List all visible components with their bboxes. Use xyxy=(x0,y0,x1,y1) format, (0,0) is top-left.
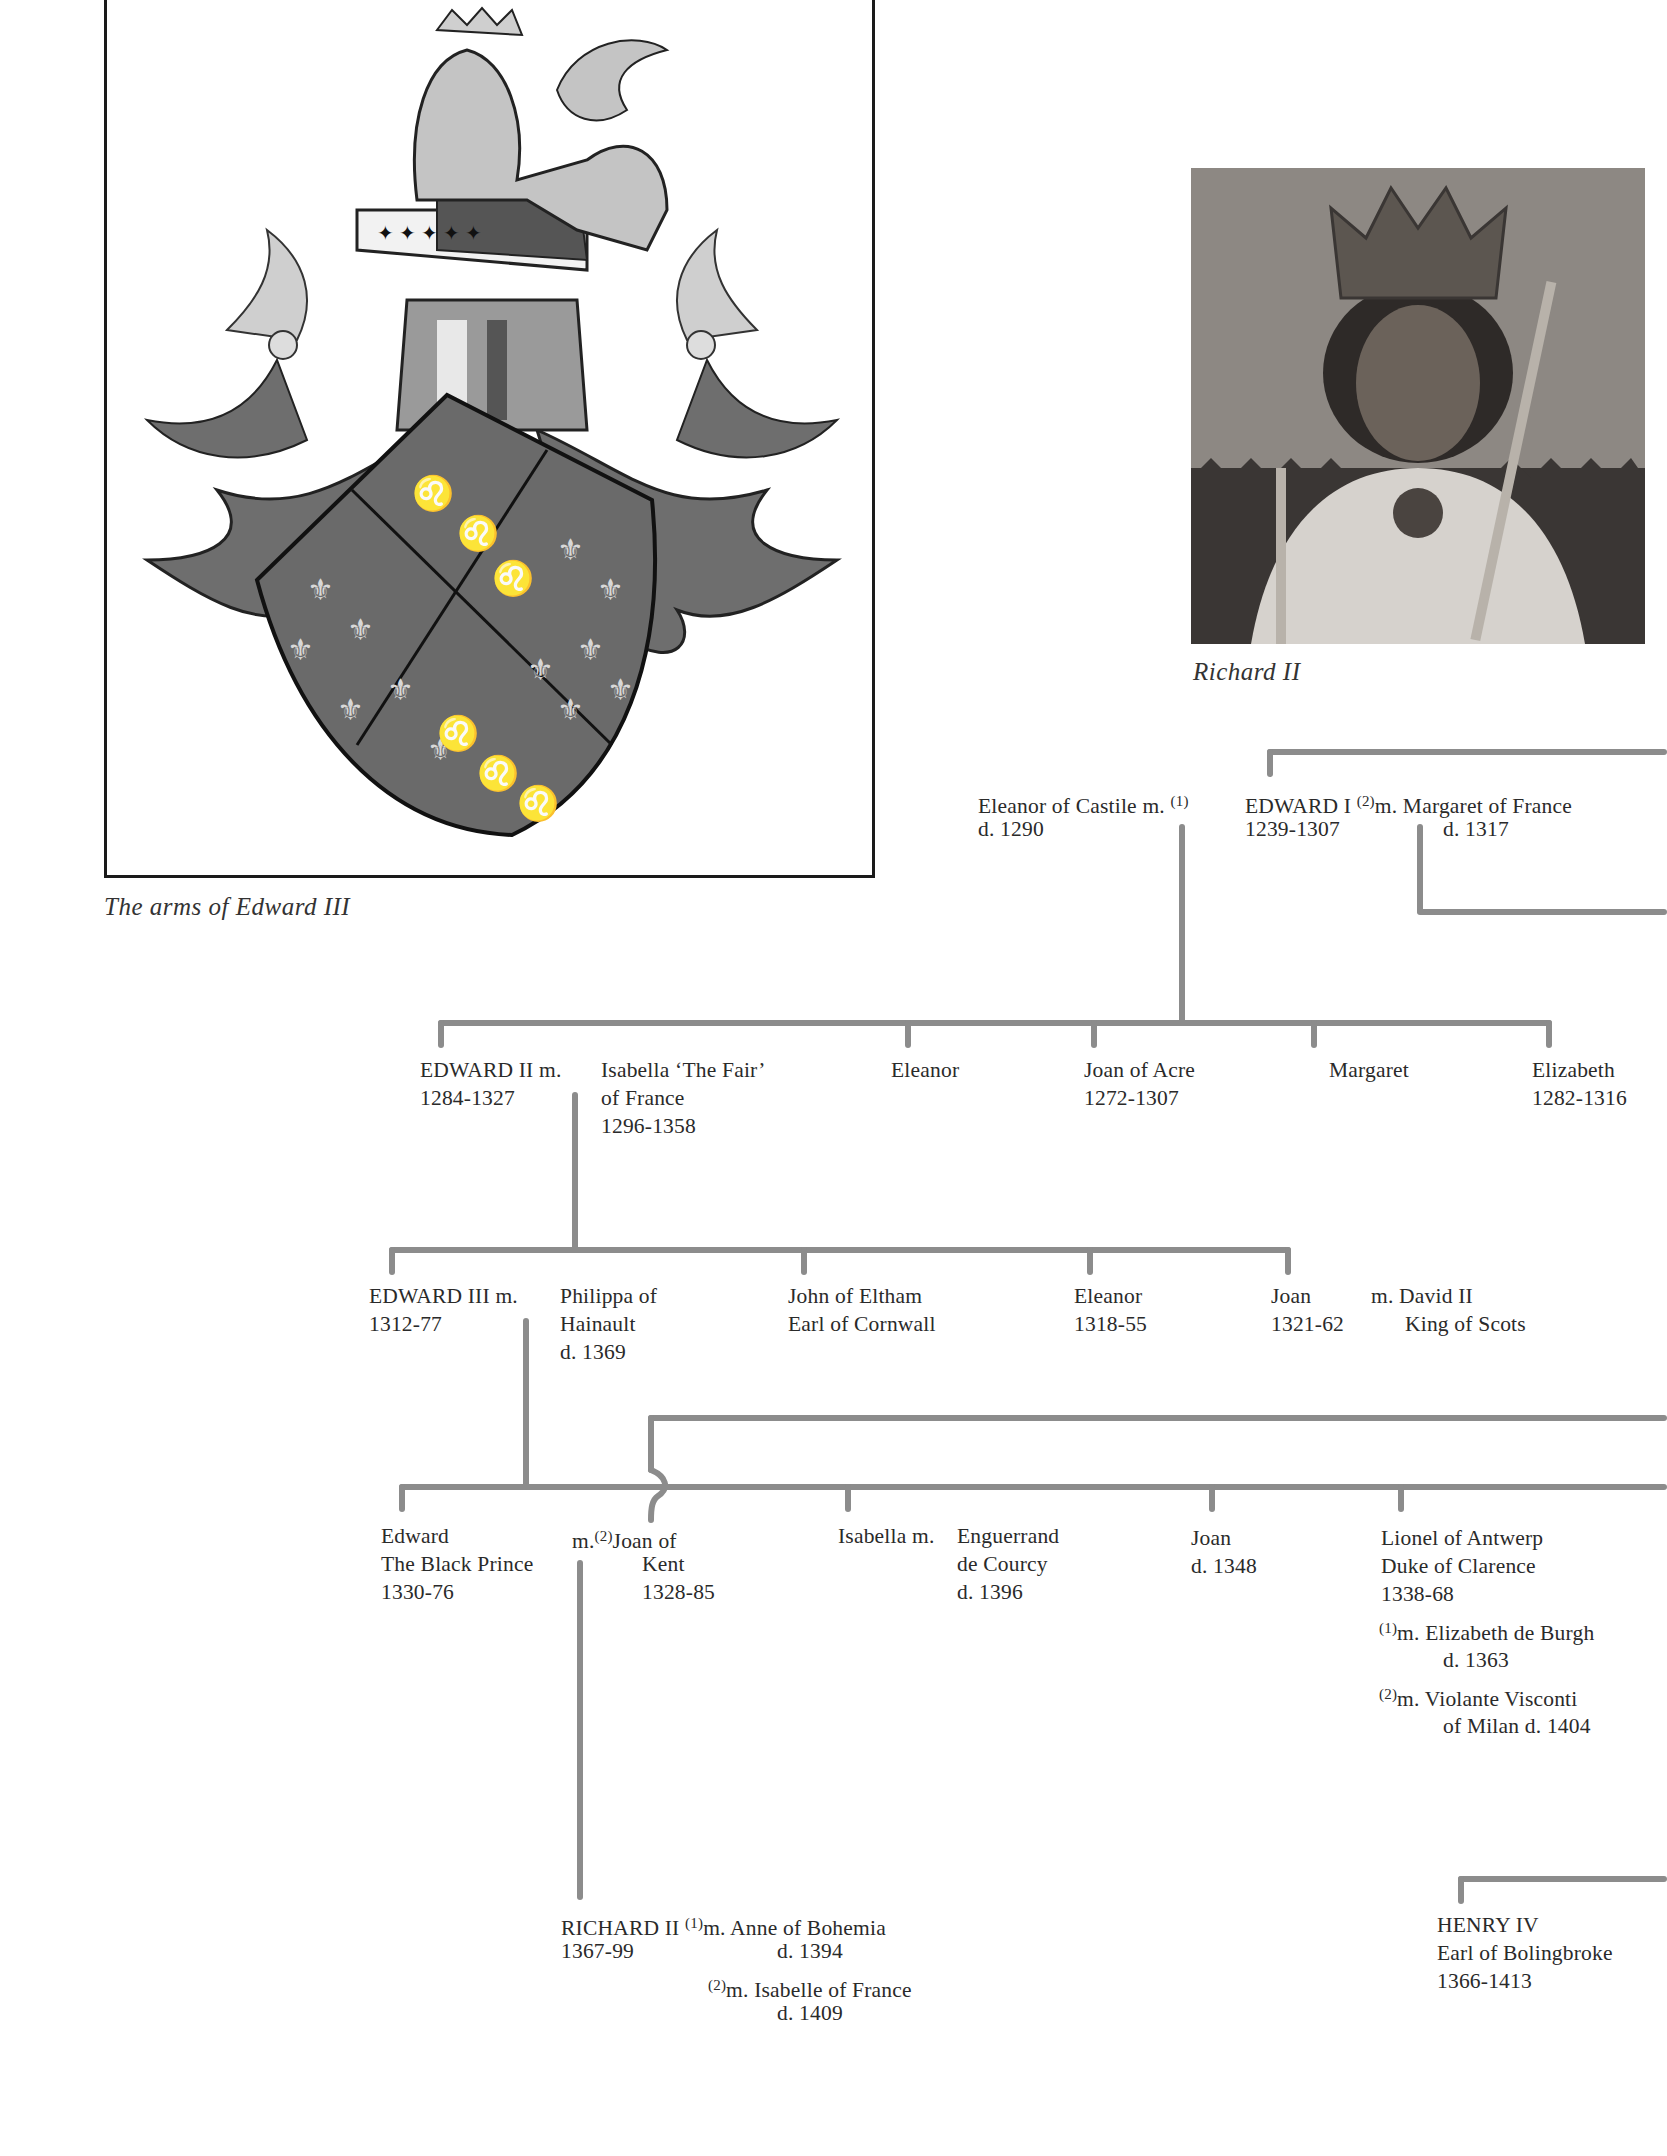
svg-text:⚜: ⚜ xyxy=(307,573,334,606)
person-joan: Joan xyxy=(1271,1282,1311,1310)
svg-text:⚜: ⚜ xyxy=(287,633,314,666)
person-dates: d. 1317 xyxy=(1443,815,1509,843)
person-dates: 1282-1316 xyxy=(1532,1084,1627,1112)
spouse-dates: d. 1394 xyxy=(777,1937,843,1965)
line-bridge-icon xyxy=(644,1468,674,1524)
person-dates: d. 1348 xyxy=(1191,1552,1257,1580)
marriage-number: (1) xyxy=(685,1915,703,1931)
person-eleanor: Eleanor xyxy=(1074,1282,1142,1310)
spouse-dates: d. 1363 xyxy=(1443,1646,1509,1674)
connector-line xyxy=(648,1415,1667,1421)
spouse-name: m. Elizabeth de Burgh xyxy=(1397,1621,1594,1645)
marriage-marker: m. xyxy=(539,1058,562,1082)
spouse-title: King of Scots xyxy=(1405,1310,1526,1338)
connector-line xyxy=(523,1318,529,1490)
svg-text:⚜: ⚜ xyxy=(597,573,624,606)
person-lionel-line1: Lionel of Antwerp xyxy=(1381,1524,1543,1552)
person-name: EDWARD II xyxy=(420,1058,533,1082)
person-edward-ii: EDWARD II m. xyxy=(420,1056,562,1084)
spouse-isabella-dates: 1296-1358 xyxy=(601,1112,696,1140)
spouse-dates: d. 1409 xyxy=(777,1999,843,2027)
spouse-isabella-line1: Isabella ‘The Fair’ xyxy=(601,1056,766,1084)
connector-line xyxy=(1209,1484,1215,1512)
connector-line xyxy=(1546,1020,1552,1048)
connector-line xyxy=(438,1020,444,1048)
connector-line xyxy=(1179,824,1185,1026)
marriage-marker: (2) xyxy=(1357,793,1375,809)
spouse-dates: d. 1396 xyxy=(957,1578,1023,1606)
svg-text:⚜: ⚜ xyxy=(557,693,584,726)
svg-text:⚜: ⚜ xyxy=(527,653,554,686)
marriage-number: (2) xyxy=(708,1977,726,1993)
connector-line xyxy=(577,1560,583,1900)
connector-line xyxy=(845,1484,851,1512)
svg-text:⚜: ⚜ xyxy=(557,533,584,566)
connector-line xyxy=(1398,1484,1404,1512)
person-lionel-line2: Duke of Clarence xyxy=(1381,1552,1536,1580)
connector-line xyxy=(1285,1247,1291,1275)
person-eleanor: Eleanor xyxy=(891,1056,959,1084)
person-dates: 1284-1327 xyxy=(420,1084,515,1112)
person-dates: 1239-1307 xyxy=(1245,815,1340,843)
svg-text:⚜: ⚜ xyxy=(347,613,374,646)
svg-text:⚜: ⚜ xyxy=(607,673,634,706)
connector-line xyxy=(1417,824,1423,914)
connector-line xyxy=(399,1484,405,1512)
spouse-line2: Kent xyxy=(642,1550,685,1578)
svg-text:⚜: ⚜ xyxy=(337,693,364,726)
svg-text:♌: ♌ xyxy=(437,714,479,753)
connector-line xyxy=(438,1020,1552,1026)
marriage-number: (1) xyxy=(1379,1620,1397,1636)
spouse-philippa-line2: Hainault xyxy=(560,1310,636,1338)
coat-of-arms-icon: ✦ ✦ ✦ ✦ ✦ ⚜⚜⚜ ⚜⚜⚜ ⚜⚜⚜ ⚜⚜⚜ ♌♌♌ ♌♌♌ xyxy=(107,0,872,875)
spouse-philippa-dates: d. 1369 xyxy=(560,1338,626,1366)
connector-line xyxy=(1417,909,1667,915)
person-title: Earl of Cornwall xyxy=(788,1310,936,1338)
connector-line xyxy=(1311,1020,1317,1048)
svg-text:♌: ♌ xyxy=(492,559,534,598)
person-dates: 1338-68 xyxy=(1381,1580,1454,1608)
person-dates: 1272-1307 xyxy=(1084,1084,1179,1112)
portrait-image-icon xyxy=(1191,168,1645,644)
richard-ii-portrait xyxy=(1191,168,1645,644)
person-black-prince-line1: Edward xyxy=(381,1522,449,1550)
person-black-prince-line2: The Black Prince xyxy=(381,1550,533,1578)
connector-line xyxy=(399,1484,1667,1490)
svg-text:⚜: ⚜ xyxy=(387,673,414,706)
person-joan: Joan xyxy=(1191,1524,1231,1552)
svg-text:⚜: ⚜ xyxy=(577,633,604,666)
spouse-philippa-line1: Philippa of xyxy=(560,1282,657,1310)
person-dates: 1321-62 xyxy=(1271,1310,1344,1338)
connector-line xyxy=(1458,1876,1667,1882)
connector-line xyxy=(572,1092,578,1252)
connector-line xyxy=(1267,749,1667,755)
connector-line xyxy=(1087,1247,1093,1275)
person-dates: 1367-99 xyxy=(561,1937,634,1965)
arms-caption: The arms of Edward III xyxy=(104,893,350,921)
connector-line xyxy=(389,1247,1291,1253)
connector-line xyxy=(648,1415,654,1473)
svg-text:♌: ♌ xyxy=(412,474,454,513)
spouse-line2: de Courcy xyxy=(957,1550,1048,1578)
spouse-isabella-line2: of France xyxy=(601,1084,685,1112)
person-dates: 1318-55 xyxy=(1074,1310,1147,1338)
arms-figure: ✦ ✦ ✦ ✦ ✦ ⚜⚜⚜ ⚜⚜⚜ ⚜⚜⚜ ⚜⚜⚜ ♌♌♌ ♌♌♌ xyxy=(104,0,875,878)
spouse-david-ii: m. David II xyxy=(1371,1282,1473,1310)
connector-line xyxy=(1267,749,1273,777)
connector-line xyxy=(905,1020,911,1048)
portrait-caption: Richard II xyxy=(1193,658,1301,686)
lionel-marriage-2: (2)m. Violante Visconti xyxy=(1379,1680,1577,1713)
person-dates: 1366-1413 xyxy=(1437,1967,1532,1995)
svg-text:✦ ✦ ✦ ✦ ✦: ✦ ✦ ✦ ✦ ✦ xyxy=(377,222,482,244)
person-dates: d. 1290 xyxy=(978,815,1044,843)
svg-text:♌: ♌ xyxy=(477,754,519,793)
spouse-dates: 1328-85 xyxy=(642,1578,715,1606)
person-joan-of-acre: Joan of Acre xyxy=(1084,1056,1195,1084)
svg-text:♌: ♌ xyxy=(457,514,499,553)
person-dates: 1312-77 xyxy=(369,1310,442,1338)
spouse-dates: of Milan d. 1404 xyxy=(1443,1712,1591,1740)
person-isabella: Isabella m. xyxy=(838,1522,935,1550)
svg-text:♌: ♌ xyxy=(517,784,559,823)
person-edward-iii: EDWARD III m. xyxy=(369,1282,518,1310)
connector-line xyxy=(1458,1876,1464,1904)
